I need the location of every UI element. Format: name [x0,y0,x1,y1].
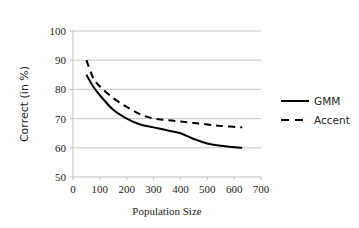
x-axis-label: Population Size [132,205,201,217]
x-tick-label: 100 [92,183,109,195]
legend-label-gmm: GMM [314,95,340,107]
x-tick-label: 500 [199,183,216,195]
x-tick-label: 400 [172,183,189,195]
x-tick-label: 600 [226,183,243,195]
data-series [86,60,242,148]
x-tick-label: 300 [145,183,162,195]
x-tick-label: 700 [253,183,270,195]
y-tick-label: 50 [55,171,67,183]
x-tick-label: 0 [70,183,76,195]
series-line-gmm [86,75,242,148]
axes [70,31,261,180]
y-tick-label: 60 [55,142,67,154]
y-tick-label: 90 [55,54,67,66]
y-tick-label: 80 [55,83,67,95]
y-tick-label: 100 [50,25,67,37]
series-line-accent [86,60,242,127]
y-tick-label: 70 [55,113,67,125]
x-tick-labels: 0100200300400500600700 [70,183,270,195]
line-chart: 5060708090100 0100200300400500600700 Cor… [0,0,359,228]
legend: GMMAccent [281,95,350,126]
y-axis-label: Correct (in %) [18,66,31,142]
y-tick-labels: 5060708090100 [50,25,67,183]
x-tick-label: 200 [118,183,135,195]
legend-label-accent: Accent [314,114,350,126]
